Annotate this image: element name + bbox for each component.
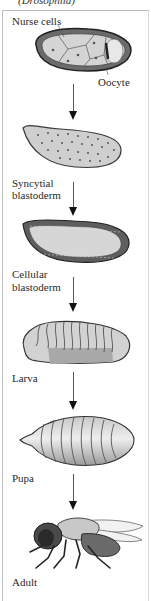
label-syncytial: Syncytial bbox=[12, 177, 54, 189]
larva-illustration bbox=[18, 318, 134, 366]
label-pupa: Pupa bbox=[12, 472, 34, 484]
label-larva: Larva bbox=[12, 372, 38, 384]
egg-chamber-illustration bbox=[28, 25, 134, 75]
label-blastoderm-1: blastoderm bbox=[12, 189, 61, 201]
arrow-down-4 bbox=[73, 372, 74, 408]
syncytial-blastoderm-illustration bbox=[20, 123, 124, 171]
arrow-down-1 bbox=[73, 84, 74, 118]
label-blastoderm-2: blastoderm bbox=[12, 281, 61, 293]
label-oocyte: Oocyte bbox=[98, 76, 130, 88]
organism-caption: (Drosophila) bbox=[18, 0, 75, 6]
arrow-down-3 bbox=[73, 277, 74, 310]
adult-fly-illustration bbox=[18, 510, 146, 572]
cellular-blastoderm-illustration bbox=[20, 218, 132, 266]
label-adult: Adult bbox=[12, 576, 37, 588]
arrow-down-5 bbox=[73, 474, 74, 508]
label-cellular: Cellular bbox=[12, 268, 47, 280]
arrow-down-2 bbox=[73, 182, 74, 214]
pupa-illustration bbox=[18, 412, 136, 468]
